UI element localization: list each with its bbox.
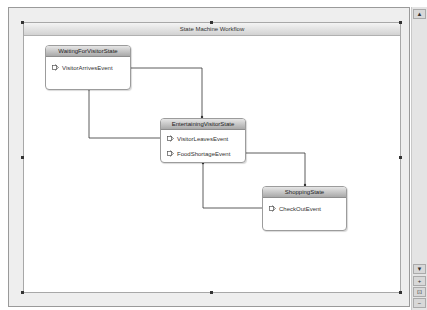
state-entertaining-visitor[interactable]: EntertainingVisitorState VisitorLeavesEv…	[160, 118, 246, 163]
vertical-scrollbar[interactable]: ▲ ▼ + ⊡ −	[411, 7, 427, 310]
resize-handle-top-right[interactable]	[399, 21, 402, 24]
state-shopping[interactable]: ShoppingState CheckOutEvent	[262, 186, 347, 231]
resize-handle-bottom-center[interactable]	[210, 291, 213, 294]
scroll-down-button[interactable]: ▼	[413, 264, 426, 274]
zoom-fit-button[interactable]: ⊡	[413, 287, 426, 297]
event-visitor-leaves[interactable]: VisitorLeavesEvent	[167, 134, 228, 143]
resize-handle-middle-left[interactable]	[21, 156, 24, 159]
zoom-in-icon: +	[418, 278, 422, 284]
event-driven-activity-icon	[167, 150, 174, 157]
resize-handle-middle-right[interactable]	[399, 156, 402, 159]
event-label: VisitorArrivesEvent	[62, 65, 113, 71]
zoom-fit-icon: ⊡	[417, 289, 422, 295]
event-label: FoodShortageEvent	[177, 151, 230, 157]
state-header: EntertainingVisitorState	[161, 119, 245, 130]
event-driven-activity-icon	[52, 64, 59, 71]
state-header: WaitingForVisitorState	[46, 46, 130, 57]
event-visitor-arrives[interactable]: VisitorArrivesEvent	[52, 63, 113, 72]
event-label: CheckOutEvent	[279, 206, 321, 212]
workflow-title: State Machine Workflow	[180, 26, 245, 32]
zoom-out-icon: −	[418, 300, 422, 306]
zoom-in-button[interactable]: +	[413, 276, 426, 286]
event-label: VisitorLeavesEvent	[177, 136, 228, 142]
resize-handle-bottom-left[interactable]	[21, 291, 24, 294]
event-driven-activity-icon	[269, 205, 276, 212]
zoom-out-button[interactable]: −	[413, 298, 426, 308]
event-driven-activity-icon	[167, 135, 174, 142]
workflow-title-bar: State Machine Workflow	[24, 23, 400, 36]
arrow-down-icon: ▼	[417, 266, 423, 272]
arrow-up-icon: ▲	[417, 11, 423, 17]
event-check-out[interactable]: CheckOutEvent	[269, 204, 321, 213]
scroll-up-button[interactable]: ▲	[413, 9, 426, 19]
event-food-shortage[interactable]: FoodShortageEvent	[167, 149, 230, 158]
state-waiting-for-visitor[interactable]: WaitingForVisitorState VisitorArrivesEve…	[45, 45, 131, 90]
resize-handle-top-left[interactable]	[21, 21, 24, 24]
resize-handle-top-center[interactable]	[210, 21, 213, 24]
state-header: ShoppingState	[263, 187, 346, 198]
resize-handle-bottom-right[interactable]	[399, 291, 402, 294]
